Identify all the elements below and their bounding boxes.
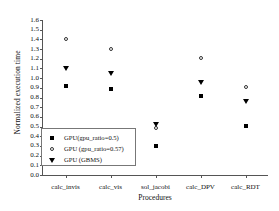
data-point	[154, 144, 158, 148]
x-tick-mark	[156, 175, 157, 178]
legend-label-0: GPU(gpu_ratio=0.5)	[64, 133, 119, 143]
data-point	[244, 85, 248, 89]
y-tick-mark	[40, 49, 43, 50]
data-point	[64, 84, 68, 88]
y-tick-mark	[40, 117, 43, 118]
y-tick-label: 1.6	[15, 17, 39, 24]
y-tick-label: 0.9	[15, 84, 39, 91]
y-tick-label: 1.1	[15, 65, 39, 72]
data-point	[199, 94, 203, 98]
data-point	[64, 37, 68, 41]
y-tick-label: 1.3	[15, 46, 39, 53]
y-tick-mark	[40, 39, 43, 40]
square-marker-icon	[50, 136, 54, 140]
y-tick-label: 0.5	[15, 123, 39, 130]
y-tick-mark	[40, 20, 43, 21]
y-tick-mark	[40, 107, 43, 108]
data-point	[243, 99, 249, 104]
x-tick-mark	[201, 175, 202, 178]
chart-figure: Normalized execution time 0.00.10.20.30.…	[0, 0, 278, 211]
y-tick-mark	[40, 30, 43, 31]
data-point	[153, 122, 159, 127]
data-point	[109, 47, 113, 51]
legend-label-2: GPU (GBMS)	[64, 155, 102, 165]
y-tick-mark	[40, 98, 43, 99]
y-tick-label: 0.7	[15, 104, 39, 111]
x-tick-label: calc_RDT	[211, 183, 279, 191]
data-point	[63, 66, 69, 71]
circle-marker-icon	[50, 147, 54, 151]
y-tick-label: 1.0	[15, 75, 39, 82]
y-tick-label: 0.1	[15, 162, 39, 169]
y-tick-mark	[40, 175, 43, 176]
triangle-marker-icon	[49, 158, 55, 163]
y-tick-label: 0.8	[15, 94, 39, 101]
y-tick-mark	[40, 59, 43, 60]
y-tick-label: 0.0	[15, 172, 39, 179]
y-tick-label: 1.2	[15, 55, 39, 62]
chart-legend: GPU(gpu_ratio=0.5) GPU (gpu_ratio=0.57) …	[41, 128, 136, 166]
legend-item-1: GPU (gpu_ratio=0.57)	[42, 144, 135, 155]
y-tick-label: 1.5	[15, 26, 39, 33]
x-tick-mark	[111, 175, 112, 178]
y-tick-mark	[40, 88, 43, 89]
legend-item-0: GPU(gpu_ratio=0.5)	[42, 133, 135, 144]
data-point	[198, 80, 204, 85]
y-tick-label: 0.4	[15, 133, 39, 140]
y-tick-label: 0.2	[15, 152, 39, 159]
legend-label-1: GPU (gpu_ratio=0.57)	[64, 144, 124, 154]
y-tick-label: 0.3	[15, 142, 39, 149]
y-tick-label: 1.4	[15, 36, 39, 43]
x-tick-mark	[66, 175, 67, 178]
x-tick-mark	[246, 175, 247, 178]
data-point	[109, 87, 113, 91]
data-point	[108, 71, 114, 76]
x-axis-title: Procedures	[42, 193, 268, 202]
legend-item-2: GPU (GBMS)	[42, 155, 135, 166]
y-tick-mark	[40, 78, 43, 79]
data-point	[199, 56, 203, 60]
y-tick-label: 0.6	[15, 113, 39, 120]
data-point	[244, 124, 248, 128]
y-tick-mark	[40, 68, 43, 69]
